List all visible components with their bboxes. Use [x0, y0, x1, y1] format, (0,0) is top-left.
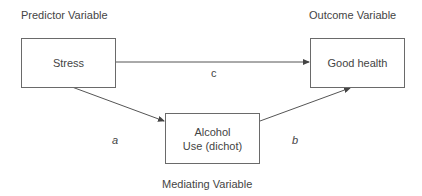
predictor-role-label: Predictor Variable — [21, 9, 108, 21]
arrows-layer — [0, 0, 422, 196]
path-label-a: a — [112, 134, 118, 146]
node-good-health: Good health — [310, 38, 405, 88]
node-stress-label: Stress — [53, 56, 84, 70]
path-label-b: b — [292, 134, 298, 146]
path-label-c: c — [211, 67, 217, 79]
node-alcohol-use: Alcohol Use (dichot) — [165, 113, 260, 164]
mediator-role-label: Mediating Variable — [162, 178, 252, 190]
node-good-health-label: Good health — [328, 56, 388, 70]
node-alcohol-line2: Use (dichot) — [183, 139, 242, 153]
node-stress: Stress — [21, 38, 116, 88]
arrow-b — [260, 88, 350, 121]
outcome-role-label: Outcome Variable — [309, 9, 396, 21]
node-alcohol-line1: Alcohol — [194, 125, 230, 139]
arrow-a — [72, 87, 164, 121]
